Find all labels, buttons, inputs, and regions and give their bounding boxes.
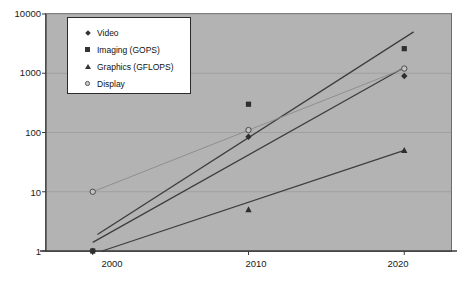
legend-label-video: Video [97,28,119,38]
chart-container: 10000 1000 100 10 1 2000 2010 2020 Video… [0,0,465,287]
video-marker-icon [81,31,94,35]
legend-label-imaging: Imaging (GOPS) [97,45,160,55]
legend-item-video[interactable]: Video [68,24,190,41]
legend-label-graphics: Graphics (GFLOPS) [97,62,174,72]
display-marker-icon [81,81,94,86]
legend-item-graphics[interactable]: Graphics (GFLOPS) [68,58,190,75]
graphics-marker-icon [81,64,94,69]
legend-label-display: Display [97,79,125,89]
legend-item-imaging[interactable]: Imaging (GOPS) [68,41,190,58]
chart-legend: Video Imaging (GOPS) Graphics (GFLOPS) D… [67,17,191,94]
legend-item-display[interactable]: Display [68,75,190,92]
imaging-marker-icon [81,47,94,52]
